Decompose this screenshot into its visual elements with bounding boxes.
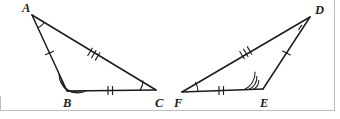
tick-group-DE (283, 51, 291, 55)
geometry-figure: A B C (0, 0, 340, 119)
vertex-label-D: D (314, 3, 324, 17)
side-FE (182, 89, 263, 92)
angle-arc-A (38, 23, 44, 28)
vertex-label-C: C (155, 96, 164, 110)
vertex-label-F: F (173, 96, 183, 110)
tick-DE-1 (283, 51, 291, 55)
angle-arc-E (244, 72, 259, 90)
angle-arc-A-1 (38, 23, 44, 28)
angle-arc-E-3 (244, 72, 255, 90)
vertex-label-B: B (62, 96, 71, 110)
figure-canvas: A B C (0, 0, 340, 119)
side-BC (67, 90, 156, 91)
angle-arc-B (59, 74, 86, 93)
vertex-label-E: E (259, 96, 268, 110)
vertex-label-A: A (21, 1, 30, 15)
side-DF (182, 17, 310, 92)
triangle-def: D E F (173, 3, 324, 110)
triangle-abc: A B C (21, 1, 164, 110)
